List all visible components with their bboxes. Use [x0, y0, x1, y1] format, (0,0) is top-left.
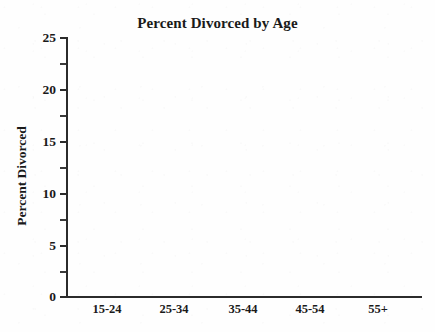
x-tick-label: 55+ [346, 302, 410, 317]
x-tick-label: 15-24 [75, 302, 139, 317]
y-axis-line [66, 37, 68, 298]
y-tick-mark-minor [60, 271, 66, 273]
y-tick-mark-major [60, 37, 67, 39]
x-tick-label: 25-34 [142, 302, 206, 317]
y-tick-mark-minor [60, 167, 66, 169]
y-tick-label: 15 [16, 135, 56, 149]
y-tick-label: 20 [16, 83, 56, 97]
y-tick-label: 10 [16, 187, 56, 201]
x-tick-label: 45-54 [278, 302, 342, 317]
chart-title: Percent Divorced by Age [0, 14, 435, 32]
y-axis-title: Percent Divorced [14, 96, 29, 256]
y-tick-mark-major [60, 296, 67, 298]
y-tick-mark-minor [60, 63, 66, 65]
y-tick-mark-minor [60, 115, 66, 117]
y-tick-mark-minor [60, 219, 66, 221]
y-tick-mark-major [60, 193, 67, 195]
y-tick-mark-major [60, 245, 67, 247]
y-tick-label: 25 [16, 31, 56, 45]
y-tick-label: 5 [16, 239, 56, 253]
chart-figure: Percent Divorced by Age Percent Divorced… [0, 0, 435, 332]
plot-area [68, 37, 422, 296]
x-tick-label: 35-44 [211, 302, 275, 317]
y-tick-mark-major [60, 89, 67, 91]
y-tick-label: 0 [16, 290, 56, 304]
x-axis-line [66, 296, 422, 298]
y-tick-mark-major [60, 141, 67, 143]
